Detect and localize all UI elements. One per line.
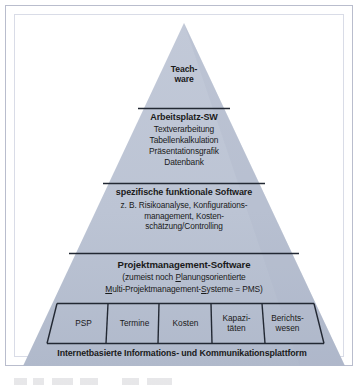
tier-spezifische-line-2: management, Kosten- bbox=[62, 211, 306, 222]
function-cell-berichtswesen-label: Berichts- wesen bbox=[271, 313, 304, 333]
tier-arbeitsplatz-sw-line-2: Tabellenkalkulation bbox=[91, 135, 277, 146]
tier-spezifische-line-1: z. B. Risikoanalyse, Konfigurations- bbox=[62, 200, 306, 211]
function-cell-termine-label: Termine bbox=[120, 318, 150, 328]
figure-pyramid-diagram: Teach- ware Arbeitsplatz-SW Textverarbei… bbox=[0, 0, 362, 390]
tier-pm-line-1-pre: (zumeist noch bbox=[122, 272, 175, 282]
tier-spezifische-funktionale-software: spezifische funktionale Software z. B. R… bbox=[62, 187, 306, 232]
function-cell-berichtswesen: Berichts- wesen bbox=[262, 304, 313, 342]
tier-arbeitsplatz-sw-line-3: Präsentationsgrafik bbox=[91, 146, 277, 157]
function-cell-kapazitaeten-label: Kapazi- täten bbox=[222, 313, 250, 333]
tier-spezifische-line-3: schätzung/Controlling bbox=[62, 221, 306, 232]
tier-arbeitsplatz-sw-body: Textverarbeitung Tabellenkalkulation Prä… bbox=[91, 124, 277, 168]
tier-spezifische-body: z. B. Risikoanalyse, Konfigurations- man… bbox=[62, 200, 306, 233]
function-cell-kapazitaeten-line-2: täten bbox=[227, 323, 245, 333]
function-cell-row: PSP Termine Kosten Kapazi- täten Bericht… bbox=[58, 304, 313, 342]
tier-pm-heading: Projektmanagement-Software bbox=[42, 259, 326, 270]
tier-teachware-heading-line-2: ware bbox=[131, 74, 237, 84]
cropped-caption-ghost bbox=[14, 378, 204, 385]
function-cell-psp-label: PSP bbox=[75, 318, 92, 328]
tier-pm-line-2-mid-2: ysteme = PMS) bbox=[207, 284, 263, 294]
function-cell-berichtswesen-line-2: wesen bbox=[276, 323, 300, 333]
function-cell-berichtswesen-line-1: Berichts- bbox=[271, 313, 304, 323]
tier-arbeitsplatz-sw-line-4: Datenbank bbox=[91, 157, 277, 168]
tier-pm-line-2: Multi-Projektmanagement-Systeme = PMS) bbox=[42, 284, 326, 295]
tier-teachware: Teach- ware bbox=[131, 64, 237, 85]
tier-pm-body: (zumeist noch Planungsorientierte Multi-… bbox=[42, 272, 326, 295]
function-cell-kosten: Kosten bbox=[160, 304, 211, 342]
tier-arbeitsplatz-sw-heading: Arbeitsplatz-SW bbox=[91, 112, 277, 123]
tier-arbeitsplatz-sw: Arbeitsplatz-SW Textverarbeitung Tabelle… bbox=[91, 112, 277, 168]
tier-internet-plattform: Internetbasierte Informations- und Kommu… bbox=[26, 348, 338, 358]
function-cell-kosten-label: Kosten bbox=[173, 318, 199, 328]
function-cell-termine: Termine bbox=[109, 304, 160, 342]
tier-arbeitsplatz-sw-line-1: Textverarbeitung bbox=[91, 124, 277, 135]
tier-internet-plattform-heading: Internetbasierte Informations- und Kommu… bbox=[26, 348, 338, 358]
tier-pm-line-1: (zumeist noch Planungsorientierte bbox=[42, 272, 326, 283]
function-cell-kapazitaeten: Kapazi- täten bbox=[211, 304, 262, 342]
tier-spezifische-heading: spezifische funktionale Software bbox=[62, 187, 306, 198]
function-cell-psp: PSP bbox=[58, 304, 109, 342]
tier-pm-line-1-post: lanungsorientierte bbox=[181, 272, 246, 282]
tier-teachware-heading-line-1: Teach- bbox=[131, 64, 237, 74]
function-cell-kapazitaeten-line-1: Kapazi- bbox=[222, 313, 250, 323]
tier-pm-line-2-mid-1: ulti-Projektmanagement- bbox=[112, 284, 201, 294]
tier-projektmanagement-software: Projektmanagement-Software (zumeist noch… bbox=[42, 259, 326, 295]
